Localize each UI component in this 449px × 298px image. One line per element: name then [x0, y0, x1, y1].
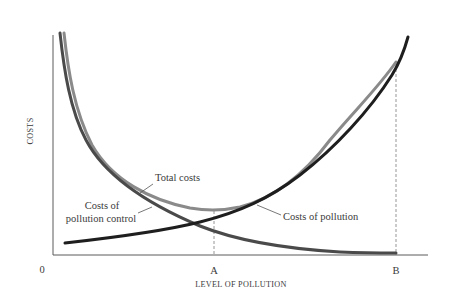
leader-pollution-control	[138, 207, 152, 213]
annotation-control-line2: pollution control	[66, 213, 136, 224]
leader-total-costs	[140, 184, 153, 193]
x-axis-title: LEVEL OF POLLUTION	[195, 280, 287, 289]
chart-canvas: Total costs Costs of pollution control C…	[0, 0, 449, 298]
tick-label-b: B	[392, 265, 399, 276]
chart: Total costs Costs of pollution control C…	[0, 0, 449, 298]
y-axis-title: COSTS	[26, 117, 35, 144]
series-total-costs	[64, 33, 396, 210]
annotation-control-line1: Costs of	[85, 200, 120, 211]
tick-label-a: A	[210, 265, 218, 276]
leader-pollution	[257, 205, 281, 215]
origin-label: 0	[39, 264, 44, 275]
annotation-total-costs: Total costs	[155, 172, 200, 183]
annotation-pollution: Costs of pollution	[283, 211, 359, 222]
